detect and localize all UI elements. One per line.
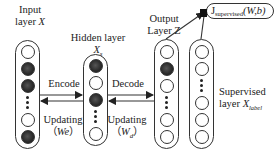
- arrows-layer: [0, 0, 277, 166]
- supervised-to-loss-arrow: [201, 16, 204, 39]
- output-to-loss-arrow: [166, 13, 203, 39]
- loss-junction: [200, 9, 207, 17]
